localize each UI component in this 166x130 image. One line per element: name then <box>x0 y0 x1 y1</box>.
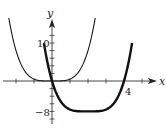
y-axis-label: y <box>46 7 54 20</box>
function-graph: x y 4 10 −8 <box>0 0 166 130</box>
thick-curve <box>44 43 132 111</box>
x-axis <box>3 78 157 84</box>
y-tick-label-10: 10 <box>37 38 50 49</box>
x-tick-label-4: 4 <box>125 86 131 97</box>
x-axis-label: x <box>159 75 166 88</box>
y-tick-label-neg8: −8 <box>35 107 50 118</box>
